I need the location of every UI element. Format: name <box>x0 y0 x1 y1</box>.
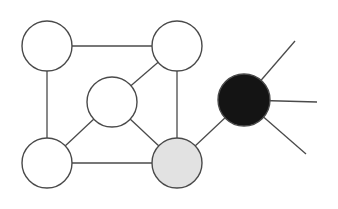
node-middle <box>87 77 137 127</box>
graph-diagram <box>0 0 338 209</box>
node-hub <box>218 74 270 126</box>
node-bottom-right <box>152 138 202 188</box>
graph-canvas <box>0 0 338 209</box>
node-bottom-left <box>22 138 72 188</box>
node-top-left <box>22 21 72 71</box>
node-top-right <box>152 21 202 71</box>
edges-layer <box>47 46 244 163</box>
